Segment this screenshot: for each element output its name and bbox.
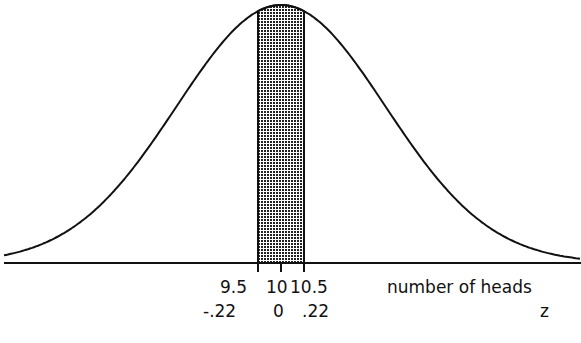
- tick-label-10.5: 10.5: [290, 279, 328, 296]
- tick-label-10: 10: [266, 279, 288, 296]
- shaded-area: [258, 5, 304, 263]
- z-label-neg: -.22: [203, 303, 236, 320]
- z-label-zero: 0: [273, 303, 284, 320]
- z-axis-label: z: [540, 303, 549, 320]
- tick-label-9.5: 9.5: [220, 279, 247, 296]
- x-axis-label: number of heads: [387, 279, 532, 296]
- z-label-pos: .22: [302, 303, 329, 320]
